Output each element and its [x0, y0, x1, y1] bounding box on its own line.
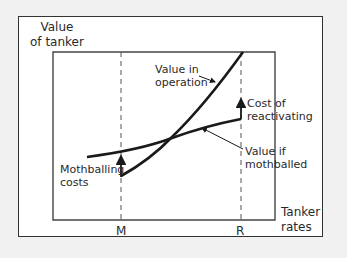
value-in-operation-line1: Value in [155, 63, 208, 76]
cost-of-reactivating-label: Cost of reactivating [247, 97, 313, 123]
x-axis-label-line2: rates [281, 220, 320, 235]
y-axis-label-line1: Value [30, 20, 84, 35]
reactivating-line2: reactivating [247, 110, 313, 123]
x-tick-r: R [236, 224, 244, 239]
value-in-operation-label: Value in operation [155, 63, 208, 89]
y-axis-label: Value of tanker [30, 20, 84, 50]
value-if-mothballed-line1: Value if [245, 145, 307, 158]
mothballing-line1: Mothballing [60, 163, 124, 176]
x-axis-label: Tanker rates [281, 205, 320, 235]
y-axis-label-line2: of tanker [30, 35, 84, 50]
value-if-mothballed-pointer [202, 128, 243, 149]
x-axis-label-line1: Tanker [281, 205, 320, 220]
value-if-mothballed-label: Value if mothballed [245, 145, 307, 171]
value-if-mothballed-line2: mothballed [245, 158, 307, 171]
value-if-mothballed-curve [87, 119, 241, 157]
reactivating-line1: Cost of [247, 97, 313, 110]
x-tick-m: M [116, 224, 126, 239]
value-in-operation-line2: operation [155, 76, 208, 89]
mothballing-costs-label: Mothballing costs [60, 163, 124, 189]
mothballing-line2: costs [60, 176, 124, 189]
